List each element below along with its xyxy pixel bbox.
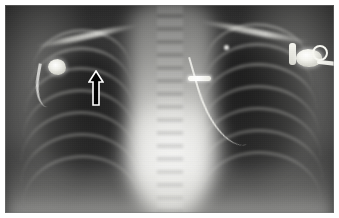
ecg-electrode-tab-icon: [289, 43, 296, 65]
ecg-electrode-ring-icon: [312, 45, 328, 61]
radiograph-image: [5, 5, 334, 213]
left-metallic-device-icon: [48, 59, 66, 75]
annotation-arrow-icon: [88, 70, 104, 106]
surgical-clip-marker-icon: [188, 76, 211, 81]
clavicle: [199, 18, 310, 45]
radiograph-figure: [0, 0, 339, 218]
clavicle: [36, 22, 139, 49]
diaphragm: [5, 159, 334, 213]
catheter-tip-icon: [224, 45, 229, 50]
